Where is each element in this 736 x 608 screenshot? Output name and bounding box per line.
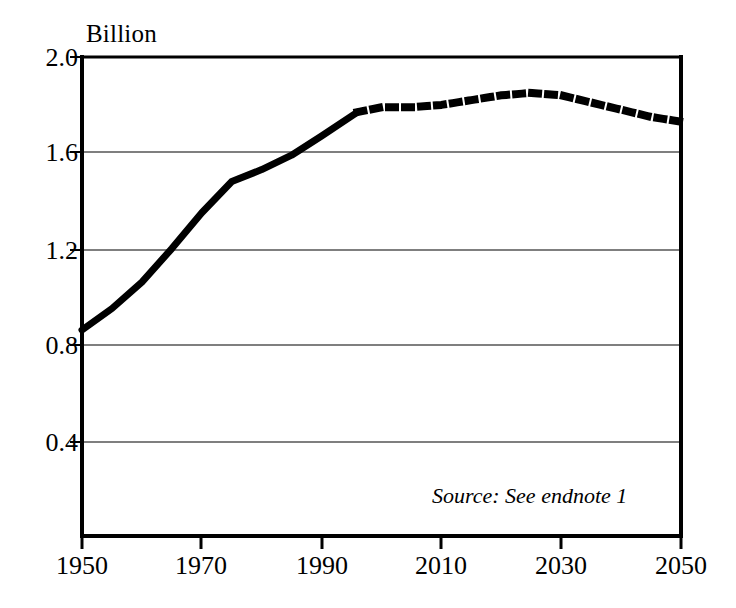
- y-tick-label-2-0: 2.0: [8, 43, 78, 73]
- x-tick-label-2030: 2030: [511, 551, 611, 581]
- x-tick-label-1950: 1950: [32, 551, 132, 581]
- line-chart-plot: [0, 0, 736, 608]
- x-tick-label-2050: 2050: [631, 551, 731, 581]
- y-tick-label-1-6: 1.6: [8, 138, 78, 168]
- chart-figure: Billion: [0, 0, 736, 608]
- x-tick-label-1990: 1990: [272, 551, 372, 581]
- y-tick-label-0-4: 0.4: [8, 428, 78, 458]
- x-tick-label-1970: 1970: [151, 551, 251, 581]
- series-line-projected: [358, 93, 682, 122]
- x-tick-label-2010: 2010: [391, 551, 491, 581]
- y-tick-label-0-8: 0.8: [8, 331, 78, 361]
- axis-frame: [80, 55, 683, 538]
- y-tick-label-1-2: 1.2: [8, 236, 78, 266]
- series-line-historical: [82, 112, 358, 330]
- source-annotation: Source: See endnote 1: [432, 483, 627, 509]
